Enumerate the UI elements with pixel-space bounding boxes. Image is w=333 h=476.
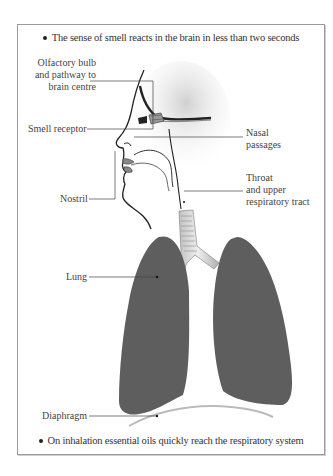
left-lung [119, 236, 189, 414]
bottom-caption: On inhalation essential oils quickly rea… [18, 435, 324, 446]
label-nasal-passages: Nasal passages [246, 127, 281, 151]
label-olfactory: Olfactory bulb and pathway to brain cent… [26, 57, 96, 93]
lips [123, 159, 134, 173]
label-nostril: Nostril [60, 193, 88, 205]
right-lung [213, 237, 292, 405]
nostril-shape [124, 143, 131, 146]
bottom-caption-text: On inhalation essential oils quickly rea… [48, 435, 304, 446]
bullet-icon [39, 439, 43, 443]
label-diaphragm: Diaphragm [42, 410, 87, 422]
label-lung: Lung [66, 271, 87, 283]
diagram-frame: The sense of smell reacts in the brain i… [17, 24, 325, 455]
label-throat: Throat and upper respiratory tract [246, 172, 310, 208]
nostril-leader [89, 151, 115, 199]
label-smell-receptor: Smell receptor [28, 123, 87, 135]
